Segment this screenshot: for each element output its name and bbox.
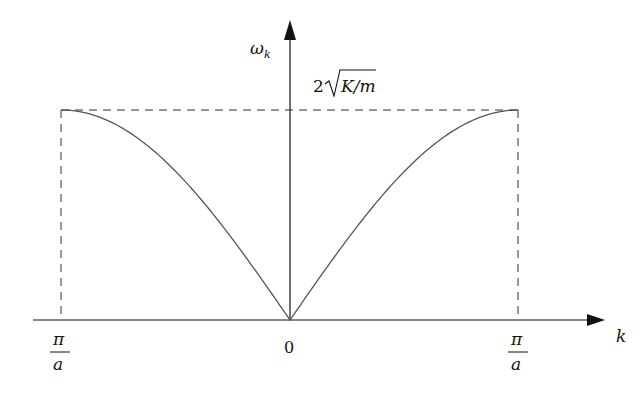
svg-text:a: a bbox=[53, 354, 63, 374]
left-edge-label: π a bbox=[50, 329, 70, 374]
x-axis-arrow-icon bbox=[587, 314, 605, 326]
right-edge-label: π a bbox=[508, 329, 528, 374]
svg-text:π: π bbox=[52, 329, 65, 349]
svg-text:a: a bbox=[511, 354, 521, 374]
svg-text:π: π bbox=[510, 329, 523, 349]
origin-label: 0 bbox=[284, 338, 294, 357]
dispersion-diagram: ωk 2 K/m k 0 π a π a bbox=[0, 0, 639, 402]
svg-text:K/m: K/m bbox=[340, 76, 376, 96]
svg-text:2: 2 bbox=[313, 76, 324, 96]
x-axis-label: k bbox=[616, 326, 626, 346]
y-axis-label: ωk bbox=[250, 38, 271, 61]
y-axis-arrow-icon bbox=[284, 20, 296, 40]
max-value-label: 2 K/m bbox=[313, 70, 376, 96]
